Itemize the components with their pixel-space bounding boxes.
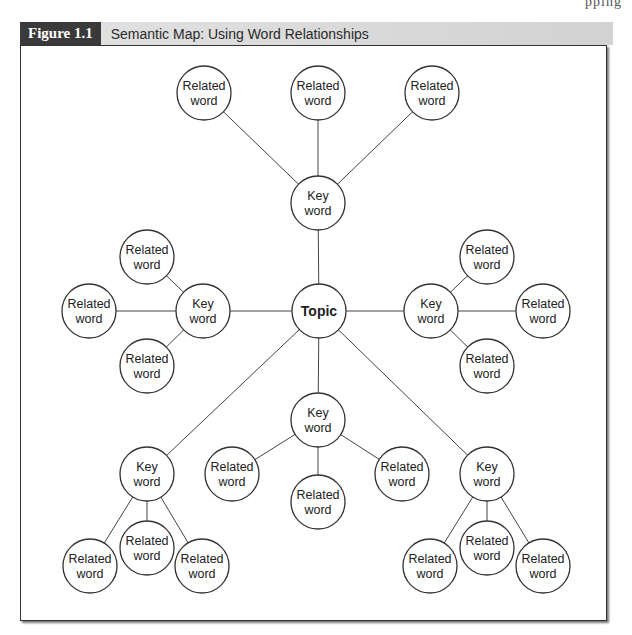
related-word-node-label: Related (410, 79, 453, 93)
related-word-node-label: word (74, 312, 102, 326)
key-word-node-bottom-right-label: Key (476, 460, 498, 474)
related-word-node: Relatedword (375, 447, 429, 501)
related-word-node: Relatedword (120, 521, 174, 575)
related-word-node-label: Related (125, 243, 168, 257)
related-word-node-circle (460, 230, 514, 284)
related-word-node-label: word (528, 312, 556, 326)
related-word-node: Relatedword (516, 284, 570, 338)
topic-node: Topic (292, 284, 346, 338)
key-word-node-top-label: word (303, 204, 331, 218)
key-word-node-bottom-right: Keyword (460, 447, 514, 501)
related-word-node-circle (120, 230, 174, 284)
related-word-node-label: Related (180, 552, 223, 566)
related-word-node-label: Related (465, 352, 508, 366)
related-word-node: Relatedword (291, 66, 345, 120)
key-word-node-right-label: word (416, 312, 444, 326)
key-word-node-right-circle (404, 284, 458, 338)
key-word-node-left: Keyword (176, 284, 230, 338)
related-word-node: Relatedword (516, 539, 570, 593)
related-word-node-circle (205, 447, 259, 501)
related-word-node-circle (63, 539, 117, 593)
related-word-node-label: Related (68, 552, 111, 566)
related-word-node-label: Related (296, 79, 339, 93)
related-word-node: Relatedword (120, 339, 174, 393)
related-word-node: Relatedword (460, 339, 514, 393)
related-word-node: Relatedword (63, 539, 117, 593)
key-word-node-right: Keyword (404, 284, 458, 338)
related-word-node-label: word (472, 549, 500, 563)
related-word-node-label: word (132, 258, 160, 272)
related-word-node-circle (291, 475, 345, 529)
semantic-map-diagram: TopicKeywordRelatedwordRelatedwordRelate… (0, 0, 632, 635)
related-word-node-circle (177, 66, 231, 120)
key-word-node-left-label: word (188, 312, 216, 326)
related-word-node-circle (516, 284, 570, 338)
related-word-node-circle (120, 339, 174, 393)
related-word-node-label: word (387, 475, 415, 489)
related-word-node-label: Related (125, 534, 168, 548)
related-word-node-circle (516, 539, 570, 593)
key-word-node-top: Keyword (291, 176, 345, 230)
key-word-node-bottom-center-circle (291, 393, 345, 447)
key-word-node-bottom-right-circle (460, 447, 514, 501)
topic-node-label: Topic (301, 303, 338, 319)
key-word-node-bottom-center-label: Key (307, 406, 329, 420)
key-word-node-bottom-center-label: word (303, 421, 331, 435)
related-word-node-label: Related (465, 534, 508, 548)
related-word-node-circle (175, 539, 229, 593)
key-word-node-left-label: Key (192, 297, 214, 311)
related-word-node-label: word (132, 367, 160, 381)
related-word-node: Relatedword (62, 284, 116, 338)
key-word-node-left-circle (176, 284, 230, 338)
related-word-node-label: Related (182, 79, 225, 93)
related-word-node-label: word (303, 94, 331, 108)
key-word-node-bottom-left-label: word (132, 475, 160, 489)
related-word-node: Relatedword (175, 539, 229, 593)
related-word-node-circle (291, 66, 345, 120)
key-word-node-bottom-left: Keyword (120, 447, 174, 501)
key-word-node-bottom-left-label: Key (136, 460, 158, 474)
related-word-node: Relatedword (460, 230, 514, 284)
related-word-node: Relatedword (405, 66, 459, 120)
key-word-node-right-label: Key (420, 297, 442, 311)
related-word-node-label: Related (465, 243, 508, 257)
related-word-node-label: Related (296, 488, 339, 502)
key-word-node-top-circle (291, 176, 345, 230)
related-word-node: Relatedword (291, 475, 345, 529)
related-word-node-circle (460, 339, 514, 393)
related-word-node-label: Related (408, 552, 451, 566)
key-word-node-bottom-center: Keyword (291, 393, 345, 447)
related-word-node: Relatedword (177, 66, 231, 120)
related-word-node-label: word (415, 567, 443, 581)
related-word-node-label: word (132, 549, 160, 563)
related-word-node: Relatedword (205, 447, 259, 501)
related-word-node-label: Related (125, 352, 168, 366)
related-word-node-label: Related (521, 297, 564, 311)
related-word-node-circle (375, 447, 429, 501)
related-word-node-circle (403, 539, 457, 593)
key-word-node-bottom-right-label: word (472, 475, 500, 489)
key-word-node-bottom-left-circle (120, 447, 174, 501)
related-word-node-label: word (187, 567, 215, 581)
related-word-node-label: word (472, 258, 500, 272)
related-word-node-label: Related (380, 460, 423, 474)
key-word-node-top-label: Key (307, 189, 329, 203)
related-word-node-circle (460, 521, 514, 575)
related-word-node-label: Related (67, 297, 110, 311)
related-word-node: Relatedword (460, 521, 514, 575)
nodes: TopicKeywordRelatedwordRelatedwordRelate… (62, 66, 570, 593)
related-word-node-label: Related (521, 552, 564, 566)
related-word-node-label: word (303, 503, 331, 517)
related-word-node: Relatedword (403, 539, 457, 593)
related-word-node-label: word (75, 567, 103, 581)
related-word-node-label: word (417, 94, 445, 108)
related-word-node-label: word (472, 367, 500, 381)
related-word-node-label: word (528, 567, 556, 581)
related-word-node: Relatedword (120, 230, 174, 284)
related-word-node-label: word (189, 94, 217, 108)
related-word-node-circle (62, 284, 116, 338)
related-word-node-label: word (217, 475, 245, 489)
related-word-node-circle (405, 66, 459, 120)
related-word-node-label: Related (210, 460, 253, 474)
related-word-node-circle (120, 521, 174, 575)
